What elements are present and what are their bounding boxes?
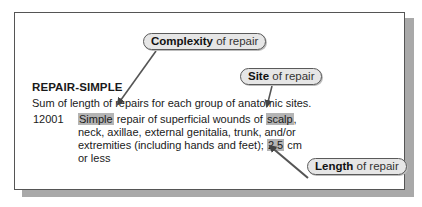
callout-length-rest: of repair xyxy=(353,160,398,172)
description-line-1: Simple repair of superficial wounds of s… xyxy=(78,113,302,126)
description-text: extremities (including hands and feet); xyxy=(78,139,267,151)
summary-text: Sum of length of repairs for each group … xyxy=(32,97,311,110)
callout-complexity-rest: of repair xyxy=(213,35,258,47)
callout-site: Site of repair xyxy=(240,68,322,85)
description-text: , xyxy=(294,113,297,125)
description-text: repair of superficial wounds of xyxy=(114,113,266,125)
callout-complexity-bold: Complexity xyxy=(151,35,213,47)
callout-length-bold: Length xyxy=(315,160,353,172)
section-heading: REPAIR-SIMPLE xyxy=(32,81,123,93)
description-line-4: or less xyxy=(78,152,302,165)
description-line-3: extremities (including hands and feet); … xyxy=(78,139,302,152)
callout-length: Length of repair xyxy=(307,158,407,175)
procedure-code: 12001 xyxy=(33,113,64,126)
callout-site-rest: of repair xyxy=(269,70,314,82)
highlight-length: 2.5 xyxy=(267,139,284,151)
callout-site-bold: Site xyxy=(248,70,269,82)
callout-complexity: Complexity of repair xyxy=(143,33,266,50)
description-line-2: neck, axillae, external genitalia, trunk… xyxy=(78,126,302,139)
highlight-simple: Simple xyxy=(78,113,114,125)
highlight-scalp: scalp xyxy=(266,113,294,125)
procedure-description: Simple repair of superficial wounds of s… xyxy=(78,113,302,165)
description-text: cm xyxy=(284,139,302,151)
